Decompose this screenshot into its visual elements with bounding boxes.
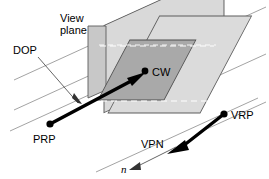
label-view-plane-line1: View (60, 12, 84, 24)
label-dop: DOP (13, 44, 37, 56)
label-vpn: VPN (141, 138, 164, 150)
label-prp: PRP (33, 133, 56, 145)
label-vrp: VRP (231, 109, 254, 121)
figure-container: View plane DOP PRP CW VRP VPN n (0, 0, 269, 179)
label-cw: CW (152, 66, 171, 78)
dop-leader (38, 57, 82, 104)
vpn-arrowhead (167, 140, 189, 154)
vpn-arrow-shaft (183, 114, 224, 146)
n-arrowhead (129, 162, 141, 170)
view-plane-flap (88, 26, 106, 98)
label-view-plane-line2: plane (60, 24, 87, 36)
n-arrow-shaft (136, 147, 176, 167)
cw-point (142, 68, 149, 75)
view-plane-diagram: View plane DOP PRP CW VRP VPN n (0, 0, 269, 179)
vrp-point (220, 110, 227, 117)
vpn-arrow (167, 114, 224, 154)
prp-point (46, 120, 53, 127)
n-arrow (129, 147, 176, 170)
label-n: n (121, 163, 127, 175)
